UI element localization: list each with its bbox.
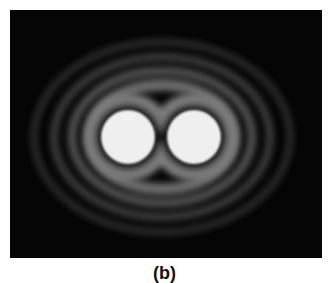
fringe-pattern-image	[10, 10, 322, 258]
left-spot	[101, 110, 155, 164]
right-spot	[167, 110, 221, 164]
interference-pattern	[10, 10, 322, 258]
figure-caption: (b)	[0, 263, 329, 283]
